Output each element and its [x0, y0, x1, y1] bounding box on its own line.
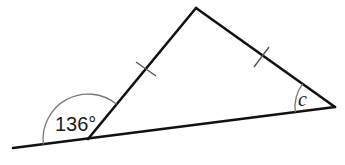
- exterior-angle-label: 136°: [55, 113, 96, 135]
- triangle-figure: 136° c: [0, 0, 345, 165]
- side-right: [196, 8, 335, 107]
- equal-side-tick-left: [136, 62, 156, 76]
- side-left: [88, 8, 196, 139]
- angle-c-label: c: [298, 88, 307, 110]
- geometry-diagram: 136° c: [0, 0, 345, 165]
